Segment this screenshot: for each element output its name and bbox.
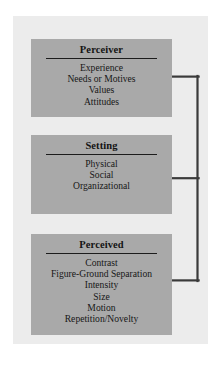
node-box-perceiver: Perceiver Experience Needs or Motives Va…: [31, 39, 172, 117]
node-title-perceiver: Perceiver: [37, 44, 166, 56]
list-item: Figure-Ground Separation: [37, 268, 166, 279]
list-item: Motion: [37, 302, 166, 313]
list-item: Social: [37, 169, 166, 180]
node-title-setting: Setting: [37, 140, 166, 152]
list-item: Repetition/Novelty: [37, 313, 166, 324]
title-rule-perceiver: [46, 58, 157, 59]
node-box-perceived: Perceived Contrast Figure-Ground Separat…: [31, 234, 172, 335]
list-item: Needs or Motives: [37, 73, 166, 84]
list-item: Size: [37, 291, 166, 302]
list-item: Values: [37, 84, 166, 95]
node-items-perceiver: Experience Needs or Motives Values Attit…: [37, 62, 166, 107]
node-items-perceived: Contrast Figure-Ground Separation Intens…: [37, 257, 166, 324]
node-box-setting: Setting Physical Social Organizational: [31, 135, 172, 214]
list-item: Organizational: [37, 180, 166, 191]
list-item: Physical: [37, 158, 166, 169]
title-rule-setting: [46, 154, 157, 155]
title-rule-perceived: [46, 253, 157, 254]
list-item: Attitudes: [37, 96, 166, 107]
list-item: Experience: [37, 62, 166, 73]
node-title-perceived: Perceived: [37, 239, 166, 251]
diagram-canvas: Perceiver Experience Needs or Motives Va…: [0, 0, 221, 367]
list-item: Intensity: [37, 279, 166, 290]
list-item: Contrast: [37, 257, 166, 268]
node-items-setting: Physical Social Organizational: [37, 158, 166, 192]
